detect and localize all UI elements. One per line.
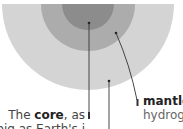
core-label-line2: big as Earth's i: [0, 122, 85, 129]
mantle-label-line2: hydroge: [143, 108, 183, 122]
planet-cross-section-diagram: The core, as big as Earth's i mantle hyd…: [0, 0, 183, 129]
mantle-label: mantle: [143, 94, 183, 108]
core-label: The core, as: [8, 108, 85, 122]
